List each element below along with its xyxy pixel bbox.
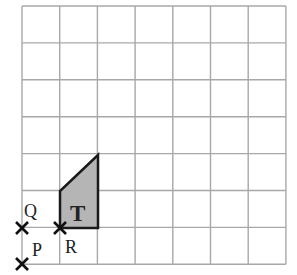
point-r-label: R bbox=[65, 237, 77, 257]
point-q-label: Q bbox=[24, 201, 37, 221]
grid-diagram: T Q R P bbox=[0, 0, 297, 275]
point-p-label: P bbox=[32, 240, 42, 260]
shape-label: T bbox=[70, 201, 85, 226]
